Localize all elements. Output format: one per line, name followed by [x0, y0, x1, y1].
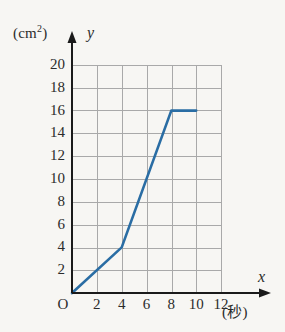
y-tick-label: 16 — [37, 102, 65, 119]
x-tick-label: 10 — [184, 296, 208, 313]
y-tick-label: 10 — [37, 170, 65, 187]
y-axis-unit-text: (cm — [13, 25, 37, 41]
origin-label: O — [54, 296, 72, 313]
y-tick-label: 12 — [37, 147, 65, 164]
y-axis-variable-label: y — [87, 24, 94, 42]
x-tick-label: 8 — [159, 296, 183, 313]
x-tick-label: 12 — [209, 296, 233, 313]
figure-background — [0, 0, 285, 332]
y-tick-label: 4 — [37, 238, 65, 255]
y-tick-label: 14 — [37, 124, 65, 141]
x-axis-variable-label: x — [258, 268, 265, 286]
y-axis-unit-label: (cm2) — [13, 25, 47, 42]
y-tick-label: 20 — [37, 56, 65, 73]
x-tick-label: 6 — [135, 296, 159, 313]
graph-figure: (cm2) y x (秒) O 2468101214161820 2468101… — [0, 0, 285, 332]
y-tick-label: 18 — [37, 79, 65, 96]
x-tick-label: 4 — [110, 296, 134, 313]
x-tick-label: 2 — [85, 296, 109, 313]
y-tick-label: 8 — [37, 193, 65, 210]
y-tick-label: 2 — [37, 261, 65, 278]
y-axis-unit-close: ) — [42, 25, 47, 41]
coordinate-plot — [0, 0, 285, 332]
y-tick-label: 6 — [37, 216, 65, 233]
